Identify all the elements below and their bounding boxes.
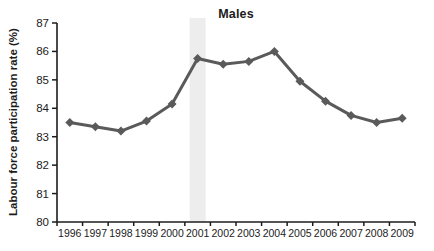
plot-area: 8081828384858687199619971998199920002001…: [0, 0, 434, 251]
data-point-marker: [91, 122, 100, 131]
x-tick-label: 1998: [109, 227, 133, 239]
x-tick-label: 1996: [58, 227, 82, 239]
data-point-marker: [398, 114, 407, 123]
y-axis-label: Labour force participation rate (%): [7, 28, 19, 216]
y-tick-label: 84: [36, 102, 49, 114]
x-tick-label: 2008: [365, 227, 389, 239]
x-tick-label: 2002: [212, 227, 236, 239]
series-line-males: [70, 51, 402, 131]
data-point-marker: [372, 118, 381, 127]
y-tick-label: 82: [36, 159, 49, 171]
x-tick-label: 2003: [237, 227, 261, 239]
chart-title: Males: [57, 7, 415, 21]
data-point-marker: [116, 127, 125, 136]
y-tick-label: 80: [36, 216, 49, 228]
x-tick-label: 2009: [391, 227, 415, 239]
y-tick-label: 83: [36, 131, 49, 143]
y-tick-label: 85: [36, 74, 49, 86]
x-tick-label: 1999: [135, 227, 159, 239]
x-tick-label: 2001: [186, 227, 210, 239]
x-tick-label: 2006: [314, 227, 338, 239]
y-tick-label: 86: [36, 45, 49, 57]
x-tick-label: 2007: [339, 227, 363, 239]
x-tick-label: 1997: [84, 227, 108, 239]
data-point-marker: [244, 57, 253, 66]
x-tick-label: 2005: [288, 227, 312, 239]
highlight-band-2001: [190, 18, 206, 222]
data-point-marker: [65, 118, 74, 127]
y-tick-label: 87: [36, 17, 49, 29]
x-tick-label: 2000: [160, 227, 184, 239]
x-tick-label: 2004: [263, 227, 287, 239]
data-point-marker: [219, 60, 228, 69]
line-chart: Males Labour force participation rate (%…: [0, 0, 434, 251]
y-tick-label: 81: [36, 188, 49, 200]
